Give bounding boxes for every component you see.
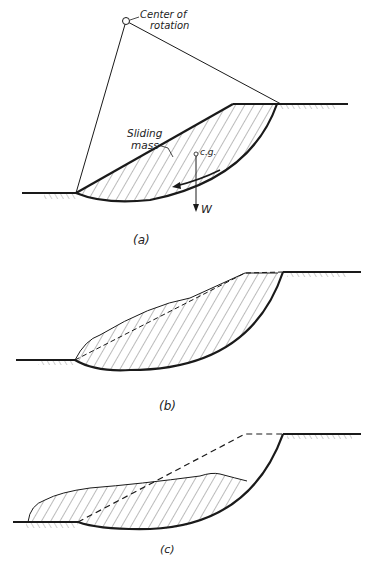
caption-a: (a): [133, 233, 150, 247]
slid-mass-area-c: [28, 473, 247, 529]
caption-c: (c): [160, 543, 175, 556]
soil-hatch-left: [44, 194, 76, 199]
cg-label: c.g.: [200, 147, 216, 157]
radius-line-left: [76, 21, 126, 193]
sliding-label-line2: mass: [131, 139, 159, 151]
caption-b: (b): [159, 399, 176, 413]
panel-b: (b): [16, 272, 361, 413]
center-label-line2: rotation: [150, 20, 189, 31]
center-of-rotation-marker: [123, 18, 130, 25]
slid-mass-area-b: [75, 273, 278, 370]
soil-hatch-right: [280, 105, 335, 109]
slope-failure-diagram: Center of rotation Sliding mass c.g. W (…: [0, 0, 375, 564]
panel-a: Center of rotation Sliding mass c.g. W (…: [22, 9, 348, 247]
soil-hatch-right-b: [287, 273, 347, 277]
weight-arrowhead-icon: [193, 204, 199, 212]
radius-line-right: [126, 21, 281, 104]
sliding-label-line1: Sliding: [127, 127, 163, 139]
panel-c: (c): [13, 434, 361, 556]
center-label-line1: Center of: [140, 9, 188, 20]
cg-marker: [194, 152, 198, 156]
weight-label: W: [201, 203, 213, 216]
soil-hatch-left-b: [38, 361, 74, 365]
center-label-leader: [130, 17, 139, 20]
soil-hatch-left-c: [26, 523, 78, 528]
soil-hatch-right-c: [287, 435, 352, 439]
